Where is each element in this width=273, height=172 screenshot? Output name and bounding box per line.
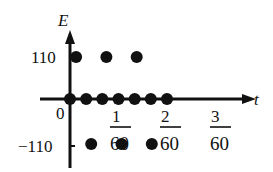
svg-text:60: 60: [160, 133, 179, 154]
origin-label: 0: [56, 104, 65, 123]
data-point: [64, 93, 76, 105]
data-point: [96, 93, 108, 105]
svg-text:60: 60: [210, 133, 229, 154]
data-point: [161, 93, 173, 105]
data-point: [113, 93, 125, 105]
data-point: [80, 93, 92, 105]
x-tick-label-2-60: 2 60: [160, 107, 181, 154]
data-point: [100, 51, 112, 63]
svg-text:2: 2: [161, 107, 170, 126]
data-point: [145, 93, 157, 105]
data-point: [129, 93, 141, 105]
svg-text:3: 3: [211, 107, 220, 126]
data-point: [131, 51, 143, 63]
y-axis-label: E: [57, 11, 69, 30]
y-tick-label-110: 110: [31, 48, 56, 67]
svg-text:1: 1: [112, 107, 121, 126]
x-tick-label-3-60: 3 60: [210, 107, 231, 154]
y-tick-label-neg110: −110: [18, 137, 52, 156]
y-axis-arrow-icon: [65, 30, 75, 44]
data-point: [85, 138, 97, 150]
energy-time-chart: E t 0 110 −110 1 60 2 60 3 60: [0, 0, 273, 172]
data-point: [146, 138, 158, 150]
data-point: [70, 51, 82, 63]
x-axis-label: t: [254, 90, 260, 109]
data-point: [116, 138, 128, 150]
